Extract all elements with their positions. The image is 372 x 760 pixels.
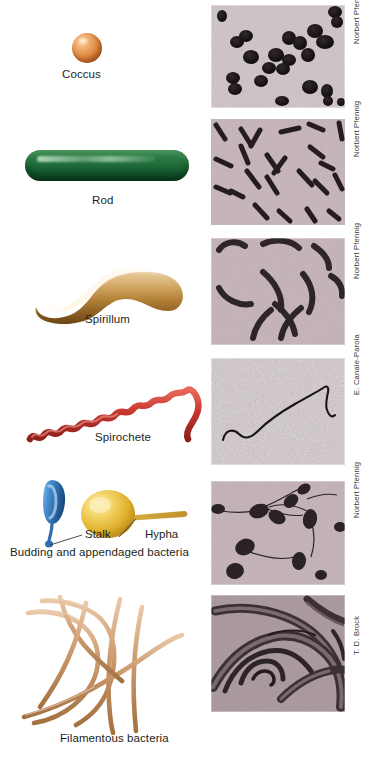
spirochete-caption: Spirochete	[95, 431, 151, 443]
budding-caption: Budding and appendaged bacteria	[10, 546, 189, 558]
figure-row-rod: Rod	[0, 115, 372, 235]
filamentous-micrograph-image	[211, 595, 345, 712]
coccus-illustration	[72, 33, 102, 63]
spirillum-micrograph	[211, 238, 345, 345]
bacterial-morphology-figure: Coccus	[0, 0, 372, 760]
budding-photo-credit: Norbert Pfennig	[352, 462, 361, 518]
coccus-photo-credit: Norbert Pfennig	[352, 0, 361, 44]
filamentous-photo-credit: T. D. Brock	[352, 616, 361, 655]
spirochete-photo-credit: E. Canale-Parola	[352, 334, 361, 395]
stalk-label: Stalk	[85, 528, 111, 540]
budding-micrograph-image	[211, 481, 345, 585]
figure-row-filamentous: Filamentous bacteria	[0, 595, 372, 760]
budding-micrograph	[211, 481, 345, 585]
filamentous-micrograph	[211, 595, 345, 712]
filamentous-illustration	[16, 595, 206, 735]
rod-micrograph-image	[211, 119, 345, 225]
spirochete-micrograph-image	[211, 358, 345, 465]
figure-row-budding: Stalk Hypha Budding and appendaged bacte…	[0, 473, 372, 595]
coccus-caption: Coccus	[62, 68, 101, 80]
rod-illustration	[25, 150, 189, 181]
spirillum-micrograph-image	[211, 238, 345, 345]
rod-photo-credit: Norbert Pfennig	[352, 101, 361, 157]
hypha-label: Hypha	[145, 528, 178, 540]
coccus-micrograph-image	[211, 5, 345, 108]
spirillum-photo-credit: Norbert Pfennig	[352, 223, 361, 279]
coccus-micrograph	[211, 5, 345, 108]
figure-row-spirillum: Spirillum	[0, 235, 372, 355]
spirochete-micrograph	[211, 358, 345, 465]
rod-micrograph	[211, 119, 345, 225]
filamentous-caption: Filamentous bacteria	[60, 732, 169, 744]
figure-row-coccus: Coccus	[0, 0, 372, 115]
figure-row-spirochete: Spirochete E. Canale-Parola	[0, 355, 372, 473]
rod-caption: Rod	[92, 194, 113, 206]
spirillum-caption: Spirillum	[85, 313, 130, 325]
